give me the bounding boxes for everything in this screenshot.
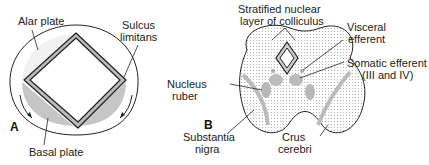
label-visceral-line1: Visceral	[347, 21, 386, 33]
label-basal-plate: Basal plate	[29, 146, 83, 158]
label-nucleus-ruber-line2: ruber	[172, 90, 198, 102]
label-nucleus-ruber-line1: Nucleus	[167, 78, 207, 90]
label-sulcus-limitans-line1: Sulcus	[122, 19, 155, 31]
panel-letter-a: A	[10, 120, 19, 134]
label-stratified-line2: layer of colliculus	[240, 15, 324, 27]
label-substantia-nigra-line1: Substantia	[183, 131, 235, 143]
label-stratified-line1: Stratified nuclear	[238, 3, 321, 15]
panel-a-neural-tube	[10, 25, 138, 145]
label-sulcus-limitans-line2: limitans	[120, 31, 157, 43]
label-crus-cerebri-line1: Crus	[282, 131, 305, 143]
label-visceral-line2: efferent	[348, 33, 385, 45]
label-somatic-line1: Somatic efferent	[347, 57, 427, 69]
label-alar-plate: Alar plate	[18, 15, 64, 27]
label-substantia-nigra-line2: nigra	[195, 143, 219, 155]
panel-letter-b: B	[204, 118, 213, 132]
label-crus-cerebri-line2: cerebri	[278, 143, 312, 155]
panel-b-midbrain	[228, 25, 365, 136]
label-somatic-line2: (III and IV)	[362, 69, 413, 81]
